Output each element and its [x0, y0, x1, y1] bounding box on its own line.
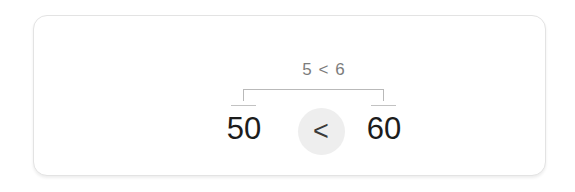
comparison-operator-badge[interactable]: < — [298, 108, 345, 155]
right-number-value: 60 — [355, 111, 413, 147]
bracket-tick-left — [231, 105, 256, 106]
number-comparison-widget: 5 < 6 50 60 < — [224, 60, 424, 160]
less-than-chevron-icon: < — [313, 118, 329, 145]
left-number-value: 50 — [215, 111, 273, 147]
comparison-bracket — [243, 89, 384, 101]
comparison-card: 5 < 6 50 60 < — [33, 15, 546, 176]
screenshot-stage: 5 < 6 50 60 < — [0, 0, 575, 192]
bracket-tick-right — [371, 105, 396, 106]
comparison-expression-label: 5 < 6 — [224, 60, 424, 80]
